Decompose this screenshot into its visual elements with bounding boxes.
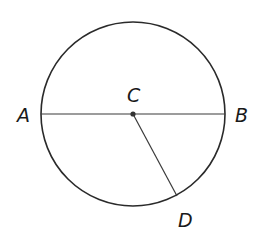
radius-cd [133,114,177,196]
label-c: C [127,84,141,106]
center-point [130,111,135,116]
circle-diagram: A B C D [0,0,262,238]
label-d: D [178,209,193,231]
label-b: B [235,104,248,126]
label-a: A [15,104,30,126]
